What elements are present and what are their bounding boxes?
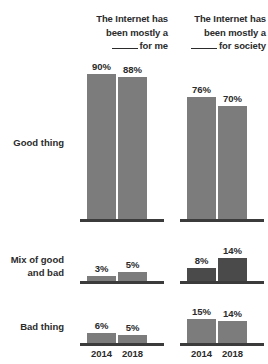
x-axis-ticks-me: 2014 2018 — [80, 348, 164, 361]
row-label-bad-thing: Bad thing — [2, 321, 64, 334]
panel-mix-society: 8% 14% — [180, 244, 264, 284]
blank-underline-icon — [191, 39, 217, 49]
baseline-bad-society — [180, 343, 264, 346]
panel-good-thing-me: 90% 88% — [80, 58, 164, 222]
bar-value-mix-me-2014: 3% — [95, 263, 109, 274]
bar-value-mix-society-2018: 14% — [223, 245, 242, 256]
column-header-me-line3: for me — [70, 39, 168, 53]
bar-good-society-2018[interactable] — [218, 106, 247, 219]
row-label-mix-line2: and bad — [2, 267, 64, 280]
column-header-me-subject: me — [154, 40, 168, 51]
bar-bad-society-2014[interactable] — [187, 319, 216, 343]
column-header-me-line1: The Internet has — [70, 12, 168, 26]
panel-bad-society: 15% 14% — [180, 306, 264, 346]
panel-good-thing-society: 76% 70% — [180, 58, 264, 222]
bar-bad-society-2018[interactable] — [218, 321, 247, 343]
bar-good-society-2014[interactable] — [187, 97, 216, 219]
grouped-bar-chart: The Internet has been mostly a for me Th… — [0, 0, 268, 364]
row-label-mix-of-good-and-bad: Mix of good and bad — [2, 254, 64, 279]
row-label-mix-line1: Mix of good — [2, 254, 64, 267]
column-header-society-line3: for society — [172, 39, 266, 53]
column-header-society-for: for — [219, 40, 231, 51]
x-axis-ticks-society: 2014 2018 — [180, 348, 264, 361]
bar-bad-me-2018[interactable] — [118, 335, 147, 343]
bar-value-bad-me-2018: 5% — [126, 322, 140, 333]
bar-value-good-society-2014: 76% — [192, 84, 211, 95]
column-header-society-subject: society — [234, 40, 266, 51]
bar-good-me-2014[interactable] — [87, 74, 116, 219]
bar-value-good-me-2018: 88% — [123, 64, 142, 75]
bar-value-good-me-2014: 90% — [92, 61, 111, 72]
bar-mix-society-2018[interactable] — [218, 258, 247, 281]
bar-bad-me-2014[interactable] — [87, 333, 116, 343]
baseline-mix-me — [80, 281, 164, 284]
column-header-me-for: for — [140, 40, 152, 51]
x-tick-me-2018: 2018 — [118, 348, 147, 359]
column-header-society-line1: The Internet has — [172, 12, 266, 26]
x-tick-society-2018: 2018 — [218, 348, 247, 359]
bar-good-me-2018[interactable] — [118, 77, 147, 219]
bar-value-bad-me-2014: 6% — [95, 320, 109, 331]
column-header-society: The Internet has been mostly a for socie… — [172, 12, 266, 53]
x-tick-society-2014: 2014 — [187, 348, 216, 359]
bar-value-good-society-2018: 70% — [223, 93, 242, 104]
x-tick-me-2014: 2014 — [87, 348, 116, 359]
bar-mix-society-2014[interactable] — [187, 268, 216, 281]
blank-underline-icon — [112, 39, 138, 49]
panel-mix-me: 3% 5% — [80, 244, 164, 284]
column-header-me-line2: been mostly a — [70, 26, 168, 40]
row-label-good-thing: Good thing — [2, 137, 64, 150]
bar-value-mix-me-2018: 5% — [126, 259, 140, 270]
bar-mix-me-2018[interactable] — [118, 272, 147, 281]
baseline-good-me — [80, 219, 164, 222]
panel-bad-me: 6% 5% — [80, 306, 164, 346]
baseline-good-society — [180, 219, 264, 222]
bar-value-bad-society-2014: 15% — [192, 306, 211, 317]
column-header-society-line2: been mostly a — [172, 26, 266, 40]
bar-value-bad-society-2018: 14% — [223, 308, 242, 319]
bar-value-mix-society-2014: 8% — [195, 255, 209, 266]
baseline-mix-society — [180, 281, 264, 284]
column-header-me: The Internet has been mostly a for me — [70, 12, 168, 53]
baseline-bad-me — [80, 343, 164, 346]
